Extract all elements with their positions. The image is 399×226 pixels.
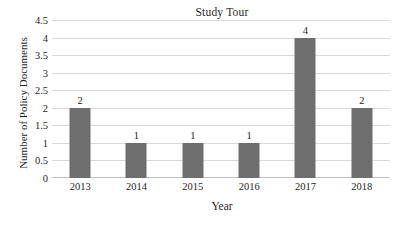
bar-2013[interactable] — [70, 108, 91, 178]
y-axis-tick-label: 2.5 — [35, 85, 48, 96]
chart-title: Study Tour — [52, 6, 392, 19]
x-axis-tick-label: 2015 — [182, 181, 203, 193]
bars-layer: 211142 — [52, 20, 390, 178]
y-axis-tick-label: 4 — [43, 32, 48, 43]
bar-value-label: 1 — [190, 130, 195, 141]
y-axis-tick-label: 4.5 — [35, 15, 48, 26]
x-axis-title: Year — [52, 200, 392, 213]
x-axis-tick-label: 2014 — [126, 181, 147, 193]
x-axis-tick-label: 2013 — [70, 181, 91, 193]
y-axis-tick-label: 2 — [43, 102, 48, 113]
bar-2015[interactable] — [182, 143, 203, 178]
x-axis-tick-label: 2017 — [295, 181, 316, 193]
bar-value-label: 1 — [134, 130, 139, 141]
y-axis-tick-label: 1 — [43, 137, 48, 148]
plot-area: 00.511.522.533.544.5 211142 — [52, 20, 390, 178]
y-axis-tick-label: 1.5 — [35, 120, 48, 131]
bar-value-label: 2 — [359, 95, 364, 106]
bar-group[interactable]: 4 — [277, 20, 333, 178]
bar-group[interactable]: 1 — [221, 20, 277, 178]
bar-value-label: 1 — [247, 130, 252, 141]
bar-group[interactable]: 1 — [108, 20, 164, 178]
y-axis-title: Number of Policy Documents — [17, 18, 29, 188]
bar-2018[interactable] — [351, 108, 372, 178]
y-axis-tick-label: 0.5 — [35, 155, 48, 166]
y-axis-tick-label: 3 — [43, 67, 48, 78]
x-axis-tick-label: 2016 — [239, 181, 260, 193]
bar-value-label: 2 — [78, 95, 83, 106]
y-axis-tick-label: 3.5 — [35, 50, 48, 61]
bar-group[interactable]: 2 — [52, 20, 108, 178]
bar-group[interactable]: 1 — [165, 20, 221, 178]
bar-2014[interactable] — [126, 143, 147, 178]
bar-chart-figure: Study Tour Number of Policy Documents 00… — [0, 0, 399, 226]
x-axis-tick-labels: 201320142015201620172018 — [52, 181, 390, 197]
x-axis-tick-label: 2018 — [351, 181, 372, 193]
bar-2016[interactable] — [239, 143, 260, 178]
bar-2017[interactable] — [295, 38, 316, 178]
y-axis-tick-label: 0 — [43, 173, 48, 184]
bar-group[interactable]: 2 — [334, 20, 390, 178]
bar-value-label: 4 — [303, 25, 308, 36]
